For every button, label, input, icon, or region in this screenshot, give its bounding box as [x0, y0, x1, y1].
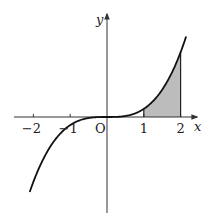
cubic-function-graph: −2−112 O x y [0, 0, 212, 224]
origin-label: O [95, 121, 106, 136]
x-tick-label: −1 [59, 121, 78, 136]
x-tick-label: −2 [22, 121, 41, 136]
x-axis-label: x [194, 119, 202, 134]
y-axis-label: y [95, 12, 104, 27]
x-tick-label: 1 [140, 121, 148, 136]
shaded-area [144, 52, 181, 117]
x-tick-label: 2 [176, 121, 184, 136]
